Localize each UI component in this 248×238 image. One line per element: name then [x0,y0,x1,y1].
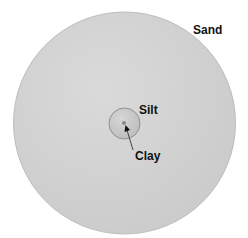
silt-label: Silt [139,104,158,116]
clay-particle [122,121,126,125]
clay-label: Clay [135,150,160,162]
sand-label: Sand [193,24,222,36]
